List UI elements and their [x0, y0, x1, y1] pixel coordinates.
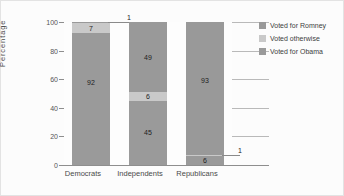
x-label-democrats: Democrats — [53, 169, 113, 178]
bar-value-obama: 6 — [203, 157, 207, 164]
bar-segment-obama[interactable]: 45 — [129, 101, 167, 165]
x-label-republicans: Republicans — [167, 169, 227, 178]
bar-segment-romney[interactable]: 93 — [186, 22, 224, 155]
bar-segment-romney[interactable]: 49 — [129, 22, 167, 92]
bar-value-obama: 92 — [87, 79, 95, 86]
bar-value-otherwise: 7 — [89, 25, 93, 32]
bar-segment-otherwise[interactable]: 7 — [72, 23, 110, 33]
bar-value-otherwise: 6 — [146, 93, 150, 100]
callout-republicans-otherwise: 1 — [238, 147, 242, 154]
legend-label-romney: Voted for Romney — [270, 22, 326, 29]
x-label-independents: Independents — [110, 169, 170, 178]
legend-item-obama[interactable]: Voted for Obama — [259, 46, 343, 57]
legend-swatch-otherwise — [259, 35, 266, 42]
y-tick-dash-0 — [59, 165, 64, 166]
y-tick-label-100: 100 — [32, 19, 58, 26]
plot-area: 7 92 1 49 6 45 93 — [64, 22, 232, 165]
bar-value-romney: 49 — [144, 54, 152, 61]
y-tick-label-20: 20 — [32, 133, 58, 140]
y-axis-title: Percentage — [0, 20, 7, 67]
legend-item-romney[interactable]: Voted for Romney — [259, 20, 343, 31]
bar-segment-obama[interactable]: 92 — [72, 33, 110, 165]
bar-segment-otherwise[interactable]: 6 — [129, 92, 167, 101]
y-tick-label-0: 0 — [32, 162, 58, 169]
bar-value-obama: 45 — [144, 129, 152, 136]
legend-item-otherwise[interactable]: Voted otherwise — [259, 33, 343, 44]
callout-line-republicans-otherwise — [222, 155, 240, 156]
legend-swatch-obama — [259, 48, 266, 55]
y-tick-label-80: 80 — [32, 48, 58, 55]
legend-label-otherwise: Voted otherwise — [270, 35, 320, 42]
bar-group-independents[interactable]: 49 6 45 — [129, 22, 167, 165]
bar-group-democrats[interactable]: 7 92 1 — [72, 22, 110, 165]
stacked-bar-chart: 100 80 60 40 20 0 Percentage 7 92 1 49 6 — [0, 0, 344, 196]
x-axis-line — [64, 165, 269, 166]
bar-segment-obama[interactable]: 6 — [186, 156, 224, 165]
legend: Voted for Romney Voted otherwise Voted f… — [259, 20, 343, 59]
callout-democrats-romney: 1 — [127, 14, 131, 21]
bar-value-romney: 93 — [201, 77, 209, 84]
bar-group-republicans[interactable]: 93 6 1 — [186, 22, 224, 165]
legend-swatch-romney — [259, 22, 266, 29]
callout-line-democrats-romney — [108, 22, 129, 23]
legend-label-obama: Voted for Obama — [270, 48, 323, 55]
y-tick-label-60: 60 — [32, 76, 58, 83]
y-tick-label-40: 40 — [32, 105, 58, 112]
